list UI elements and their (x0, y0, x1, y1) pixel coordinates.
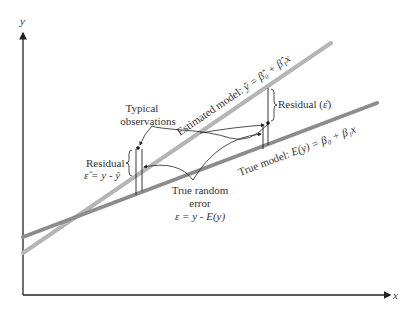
residual-right-label: Residual (ε̂) (278, 98, 332, 111)
obs1-point (136, 146, 140, 150)
residual-left-line1: Residual (86, 157, 125, 169)
true-error-line1: True random (172, 184, 229, 196)
residual-left-line2: ε̂ = y - ŷ (84, 169, 120, 181)
obs1-residual-brace (126, 150, 132, 176)
true-error-line3: ε = y - E(y) (175, 210, 226, 223)
typical-label-line1: Typical (126, 102, 159, 114)
estimated-model-label: Estimated model: ŷ = β̂₀ + β̂₁x (174, 52, 292, 138)
regression-residual-diagram: y x Estimated model: ŷ = β̂₀ + β̂₁x True… (0, 0, 419, 309)
y-axis-label: y (19, 15, 25, 27)
typical-arrow-left (140, 126, 152, 145)
typical-label-line2: observations (120, 115, 176, 127)
x-axis-label: x (392, 289, 398, 301)
obs2-residual-brace (271, 89, 277, 121)
true-error-line2: error (189, 197, 211, 209)
